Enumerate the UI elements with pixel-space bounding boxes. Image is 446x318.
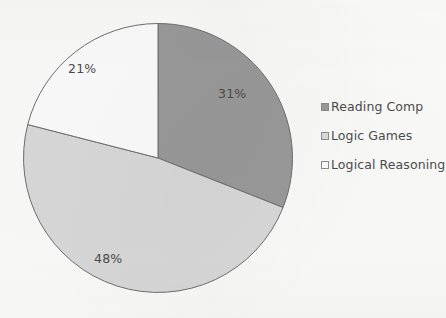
legend-swatch-icon-logical-reasoning (321, 161, 329, 169)
pie-slice-label-logical-reasoning: 21% (68, 61, 96, 76)
legend-label-logical-reasoning: Logical Reasoning (331, 157, 445, 172)
legend-item-reading-comp[interactable]: Reading Comp (321, 99, 446, 114)
legend-item-logical-reasoning[interactable]: Logical Reasoning (321, 157, 446, 172)
legend-label-logic-games: Logic Games (331, 128, 412, 143)
pie-slice-label-logic-games: 48% (94, 251, 122, 266)
pie-slice-label-reading-comp: 31% (218, 86, 246, 101)
pie-slices (24, 24, 293, 293)
legend-swatch-icon-logic-games (321, 132, 329, 140)
legend-swatch-icon-reading-comp (321, 103, 329, 111)
pie-chart-figure: 31% 48% 21% Reading Comp Logic Games Log… (0, 0, 446, 318)
legend-label-reading-comp: Reading Comp (331, 99, 423, 114)
chart-legend: Reading Comp Logic Games Logical Reasoni… (321, 99, 446, 186)
legend-item-logic-games[interactable]: Logic Games (321, 128, 446, 143)
